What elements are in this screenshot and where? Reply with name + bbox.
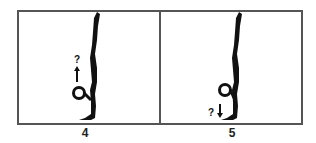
figure-handstand-4 bbox=[74, 12, 101, 120]
question-mark: ? bbox=[208, 107, 214, 118]
panel-5: ? bbox=[161, 10, 301, 123]
curl-loop bbox=[220, 85, 231, 96]
arrow-down-icon bbox=[217, 104, 223, 118]
panel-4: ? bbox=[19, 10, 159, 123]
panel-label-5: 5 bbox=[222, 126, 242, 140]
figure-handstand-5 bbox=[220, 12, 243, 120]
body-silhouette bbox=[221, 12, 242, 120]
question-mark: ? bbox=[74, 54, 80, 65]
body-silhouette bbox=[79, 12, 100, 120]
arrow-up-icon bbox=[74, 66, 80, 82]
panel-label-4: 4 bbox=[75, 126, 95, 140]
curl-loop bbox=[74, 88, 85, 99]
